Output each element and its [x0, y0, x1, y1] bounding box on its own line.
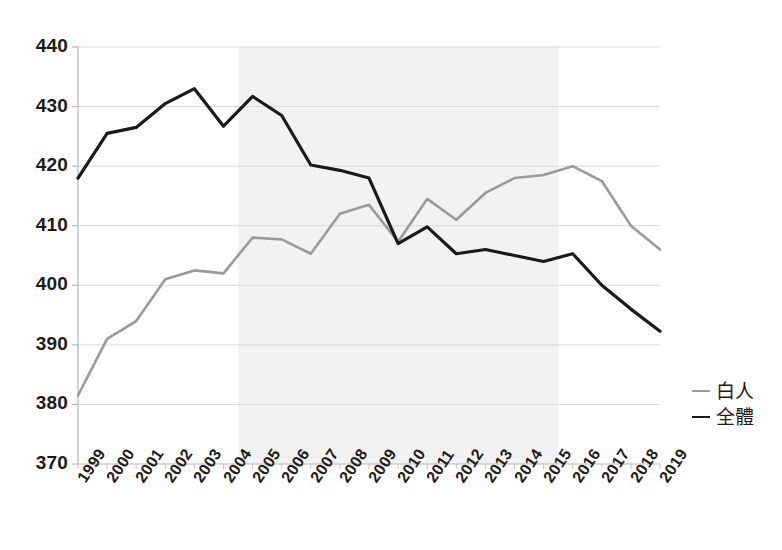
legend-item-1[interactable]: 白人: [692, 378, 782, 404]
line-chart: 370380390400410420430440 199920002001200…: [0, 0, 782, 550]
legend-line-swatch-icon: [692, 390, 710, 392]
y-tick-label-370: 370: [14, 452, 68, 474]
legend-item-2[interactable]: 全體: [692, 404, 782, 430]
legend-item-label: 全體: [716, 408, 754, 427]
chart-legend: 白人全體: [692, 378, 782, 430]
y-tick-label-400: 400: [14, 273, 68, 295]
y-tick-label-390: 390: [14, 333, 68, 355]
y-tick-label-420: 420: [14, 154, 68, 176]
y-tick-label-430: 430: [14, 95, 68, 117]
legend-line-swatch-icon: [692, 416, 710, 418]
y-tick-label-380: 380: [14, 392, 68, 414]
y-tick-mark-group: [72, 47, 78, 464]
legend-item-label: 白人: [716, 382, 754, 401]
y-tick-label-410: 410: [14, 214, 68, 236]
y-tick-label-440: 440: [14, 35, 68, 57]
